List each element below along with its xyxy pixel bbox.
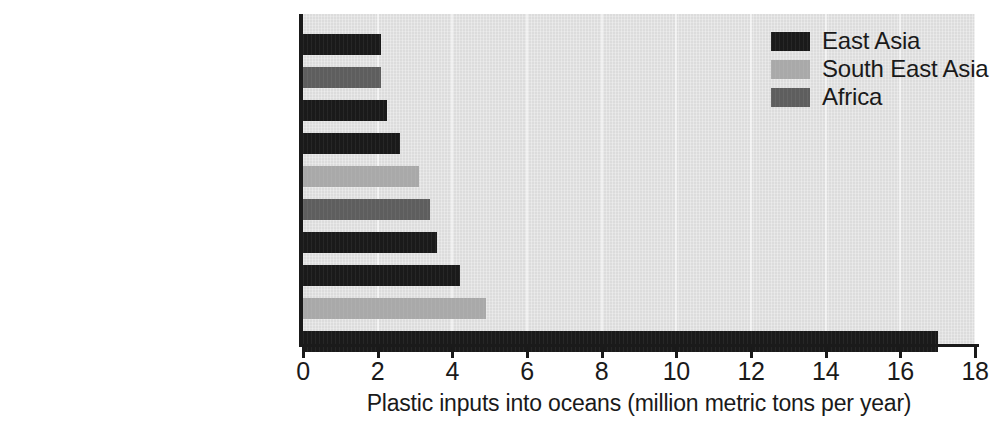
legend-label: East Asia	[822, 27, 920, 55]
legend-item-east-asia[interactable]: East Asia	[771, 27, 988, 55]
bar-amur[interactable]	[303, 100, 387, 121]
x-tick-label: 10	[646, 356, 706, 386]
legend: East AsiaSouth East AsiaAfrica	[771, 27, 988, 111]
bar-row	[303, 259, 975, 292]
bar-pearl-river[interactable]	[303, 133, 400, 154]
bar-texture	[303, 331, 938, 352]
bar-indus[interactable]	[303, 298, 486, 319]
legend-item-south-east-asia[interactable]: South East Asia	[771, 55, 988, 83]
bar-row	[303, 226, 975, 259]
x-axis-line	[299, 344, 979, 347]
bar-niger[interactable]	[303, 67, 381, 88]
bar-texture	[303, 199, 430, 220]
bar-chart: 024681012141618 MekongNigerAmurPearl Riv…	[0, 0, 1008, 428]
bar-texture	[303, 34, 381, 55]
bar-meghna-bramaputra-ganges[interactable]	[303, 166, 419, 187]
bar-row	[303, 325, 975, 358]
bar-texture	[303, 265, 460, 286]
x-tick-label: 2	[348, 356, 408, 386]
bar-texture	[303, 232, 437, 253]
x-axis-title: Plastic inputs into oceans (million metr…	[303, 389, 975, 417]
x-tick-label: 16	[870, 356, 930, 386]
y-axis-line	[299, 14, 303, 344]
x-tick-label: 6	[497, 356, 557, 386]
legend-swatch-texture	[771, 88, 810, 107]
x-tick-label: 8	[572, 356, 632, 386]
legend-swatch-africa	[771, 88, 810, 107]
bar-yangtze-river[interactable]	[303, 331, 938, 352]
legend-swatch-texture	[771, 32, 810, 51]
legend-label: Africa	[822, 83, 882, 111]
x-tick-label: 18	[945, 356, 1005, 386]
bar-texture	[303, 133, 400, 154]
x-tick-label: 4	[422, 356, 482, 386]
bar-row	[303, 160, 975, 193]
bar-row	[303, 193, 975, 226]
bar-row	[303, 127, 975, 160]
bar-yellow-river[interactable]	[303, 265, 460, 286]
legend-swatch-texture	[771, 60, 810, 79]
x-tick-label: 14	[796, 356, 856, 386]
legend-swatch-east-asia	[771, 32, 810, 51]
bar-mekong[interactable]	[303, 34, 381, 55]
x-tick-label: 12	[721, 356, 781, 386]
bar-texture	[303, 298, 486, 319]
legend-swatch-south-east-asia	[771, 60, 810, 79]
bar-texture	[303, 67, 381, 88]
legend-label: South East Asia	[822, 55, 988, 83]
bar-texture	[303, 100, 387, 121]
bar-nile[interactable]	[303, 199, 430, 220]
bar-texture	[303, 166, 419, 187]
bar-hai-he[interactable]	[303, 232, 437, 253]
legend-item-africa[interactable]: Africa	[771, 83, 988, 111]
bar-row	[303, 292, 975, 325]
x-tick-label: 0	[273, 356, 333, 386]
